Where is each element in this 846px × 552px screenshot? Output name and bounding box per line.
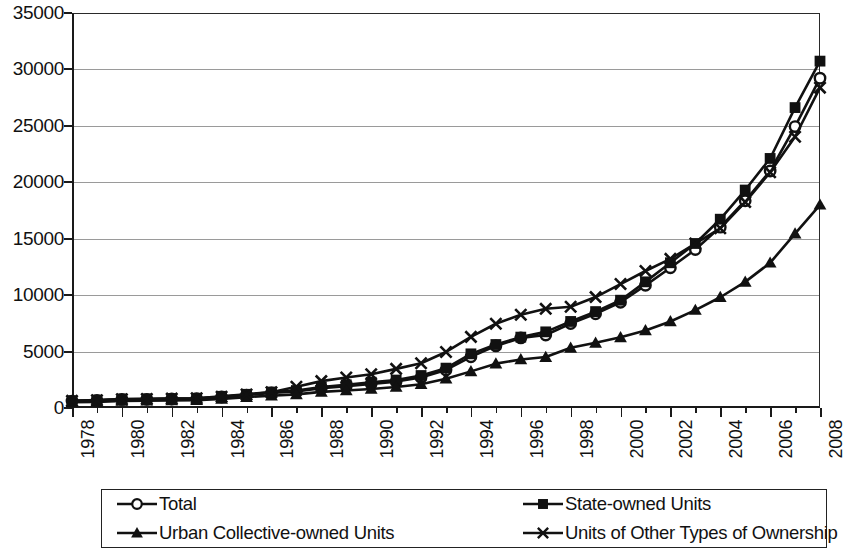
x-tick-mark (770, 408, 772, 417)
x-tick-mark (271, 408, 273, 417)
x-tick-mark (97, 408, 99, 413)
x-tick-mark (795, 408, 797, 413)
y-tick-label: 10000 (2, 285, 64, 304)
x-tick-label: 1990 (378, 420, 396, 458)
gridline (74, 239, 819, 240)
y-tick-label: 25000 (2, 116, 64, 135)
y-tick-label: 15000 (2, 229, 64, 248)
y-tick-mark (64, 125, 72, 127)
x-tick-mark (496, 408, 498, 413)
x-tick-mark (645, 408, 647, 413)
y-tick-mark (64, 68, 72, 70)
legend: TotalState-owned UnitsUrban Collective-o… (101, 489, 827, 548)
x-tick-mark (596, 408, 598, 413)
x-tick-mark (695, 408, 697, 413)
x-tick-mark (396, 408, 398, 413)
x-tick-label: 2008 (827, 420, 845, 458)
x-tick-label: 1982 (179, 420, 197, 458)
x-tick-mark (122, 408, 124, 417)
x-tick-label: 1998 (578, 420, 596, 458)
legend-marker-open-circle-icon (115, 496, 159, 512)
legend-label: State-owned Units (565, 493, 711, 515)
gridline (74, 182, 819, 183)
x-tick-label: 1994 (478, 420, 496, 458)
legend-label: Urban Collective-owned Units (159, 522, 394, 544)
x-tick-mark (521, 408, 523, 417)
x-tick-label: 1986 (278, 420, 296, 458)
legend-item[interactable]: State-owned Units (521, 493, 838, 515)
x-tick-label: 1992 (428, 420, 446, 458)
y-tick-mark (64, 12, 72, 14)
x-tick-mark (296, 408, 298, 413)
x-tick-mark (147, 408, 149, 413)
x-tick-mark (371, 408, 373, 417)
legend-item[interactable]: Total (115, 493, 521, 515)
y-tick-mark (64, 181, 72, 183)
x-tick-mark (621, 408, 623, 417)
legend-label: Total (159, 493, 197, 515)
x-tick-label: 2004 (727, 420, 745, 458)
gridline (74, 295, 819, 296)
y-tick-label: 35000 (2, 3, 64, 22)
x-tick-label: 1978 (79, 420, 97, 458)
x-tick-label: 1996 (528, 420, 546, 458)
x-tick-mark (346, 408, 348, 413)
x-tick-mark (421, 408, 423, 417)
y-tick-mark (64, 351, 72, 353)
x-tick-mark (172, 408, 174, 417)
x-tick-mark (471, 408, 473, 417)
gridline (74, 126, 819, 127)
x-tick-mark (546, 408, 548, 413)
x-tick-mark (446, 408, 448, 413)
y-tick-label: 0 (2, 398, 64, 417)
x-tick-label: 2002 (677, 420, 695, 458)
x-tick-mark (321, 408, 323, 417)
x-tick-label: 1984 (229, 420, 247, 458)
legend-item[interactable]: Urban Collective-owned Units (115, 522, 521, 544)
y-tick-mark (64, 294, 72, 296)
x-tick-mark (745, 408, 747, 413)
legend-marker-filled-square-icon (521, 496, 565, 512)
x-tick-mark (222, 408, 224, 417)
x-tick-mark (247, 408, 249, 413)
gridline (74, 69, 819, 70)
x-tick-label: 1988 (328, 420, 346, 458)
y-tick-mark (64, 238, 72, 240)
x-tick-mark (197, 408, 199, 413)
x-tick-mark (72, 408, 74, 417)
x-tick-label: 2006 (777, 420, 795, 458)
x-tick-mark (720, 408, 722, 417)
x-tick-mark (571, 408, 573, 417)
legend-marker-filled-triangle-icon (115, 525, 159, 541)
x-tick-label: 2000 (628, 420, 646, 458)
x-tick-mark (820, 408, 822, 417)
gridline (74, 352, 819, 353)
plot-area (72, 13, 820, 408)
y-tick-label: 30000 (2, 59, 64, 78)
y-tick-mark (64, 407, 72, 409)
legend-marker-x-cross-icon (521, 525, 565, 541)
x-tick-mark (670, 408, 672, 417)
legend-label: Units of Other Types of Ownership (565, 522, 838, 544)
legend-item[interactable]: Units of Other Types of Ownership (521, 522, 838, 544)
x-tick-label: 1980 (129, 420, 147, 458)
y-tick-label: 20000 (2, 172, 64, 191)
y-tick-label: 5000 (2, 342, 64, 361)
